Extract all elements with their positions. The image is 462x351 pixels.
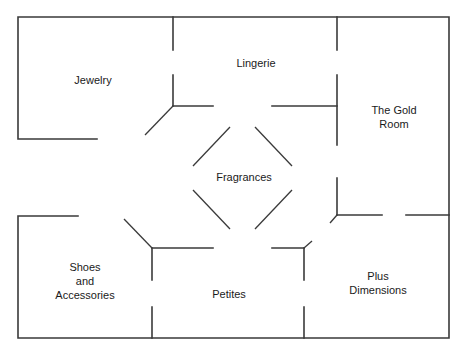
fragrances-wall-se <box>255 190 292 229</box>
room-label-fragrances: Fragrances <box>216 170 272 184</box>
plus-line1: Plus <box>349 269 406 283</box>
room-label-plus-dimensions: Plus Dimensions <box>349 269 406 297</box>
gold-room-line1: The Gold <box>371 103 416 117</box>
fragrances-wall-nw <box>193 127 230 166</box>
gold-room-line2: Room <box>371 117 416 131</box>
wall-shoes-diagonal <box>124 219 152 248</box>
room-label-petites: Petites <box>212 287 246 301</box>
room-label-shoes-accessories: Shoes and Accessories <box>55 260 114 302</box>
wall-plus-diagonal <box>304 241 312 248</box>
shoes-line2: and <box>55 274 114 288</box>
fragrances-wall-sw <box>193 190 230 229</box>
room-label-gold-room: The Gold Room <box>371 103 416 131</box>
fragrances-wall-ne <box>255 127 292 166</box>
shoes-line3: Accessories <box>55 288 114 302</box>
wall-jewelry-diagonal <box>145 106 173 135</box>
plus-line2: Dimensions <box>349 283 406 297</box>
shoes-line1: Shoes <box>55 260 114 274</box>
wall-gold-diagonal <box>330 215 337 223</box>
room-label-lingerie: Lingerie <box>236 56 275 70</box>
room-label-jewelry: Jewelry <box>74 73 111 87</box>
